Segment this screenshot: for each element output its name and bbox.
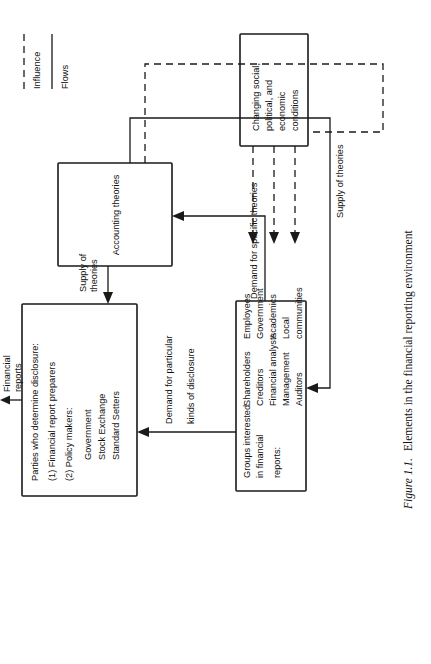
supply-theories-long-label: Supply of theories [335,144,345,218]
figure-caption: Figure 1.1. Elements in the financial re… [402,230,415,510]
parties-line-5: Standard Setters [111,391,121,460]
conditions-line-1: political, and [264,80,274,131]
parties-line-0: Parties who determine disclosure: [30,343,40,481]
parties-line-4: Stock Exchange [97,394,107,460]
groups-line-6: Management [281,352,291,406]
figure-page: Financial reports Demand for particular … [0,0,431,664]
conditions-line-2: economic [277,91,287,131]
accounting-theories-label: Accounting theories [111,174,121,255]
groups-line-0: Groups interested [242,405,252,478]
financial-reports-label-line2: reports [13,363,23,392]
groups-line-10: Academics [268,294,278,339]
caption-label: Figure 1.1. [402,458,415,510]
financial-reports-label-line1: Financial [2,355,12,392]
groups-line-3: Shareholders [242,351,252,406]
groups-line-1: in financial [255,435,265,478]
groups-line-8: Employees [242,293,252,339]
legend-flows-label: Flows [60,65,70,89]
supply-theories-top-label-line1: Supply of [78,253,88,292]
rotated-figure-wrapper: Financial reports Demand for particular … [0,0,431,664]
groups-line-7: Auditors [294,372,304,406]
conditions-line-3: conditions [290,89,300,131]
groups-line-4: Creditors [255,368,265,406]
groups-line-12: communities [294,287,304,339]
parties-line-2: (2) Policy makers: [64,407,74,481]
demand-disclosure-label-line2: kinds of disclosure [186,348,196,424]
figure-background [0,0,431,664]
legend-influence-label: Influence [32,52,42,89]
parties-line-3: Government [83,409,93,460]
groups-line-9: Government [255,288,265,339]
conditions-line-0: Changing social, [251,63,261,131]
groups-line-11: Local [281,317,291,339]
financial-reporting-environment-diagram: Financial reports Demand for particular … [0,0,431,664]
caption-text: Elements in the financial reporting envi… [402,230,415,451]
supply-theories-top-label-line2: theories [89,259,99,292]
groups-line-5: Financial analysts [268,333,278,406]
groups-line-2: reports: [272,447,282,478]
parties-line-1: (1) Financial report preparers [47,362,57,481]
demand-disclosure-label-line1: Demand for particular [164,336,174,424]
